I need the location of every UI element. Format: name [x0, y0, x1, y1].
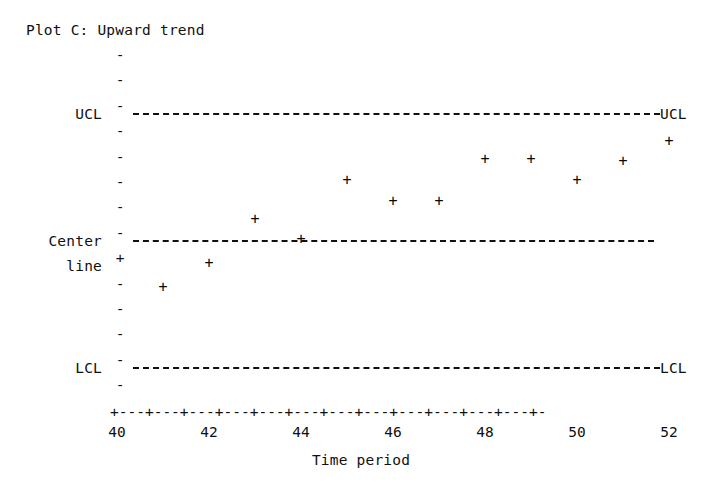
- ucl-label-left: UCL: [24, 106, 102, 122]
- data-point: +: [616, 156, 630, 166]
- y-axis-tick: -: [113, 101, 127, 111]
- center-line-label-row2: line: [24, 258, 102, 274]
- x-axis-tick-label: 50: [557, 424, 597, 440]
- data-point: +: [432, 196, 446, 206]
- lcl-label-right: LCL: [660, 360, 687, 376]
- y-axis-tick: -: [113, 355, 127, 365]
- y-axis-tick: -: [113, 152, 127, 162]
- y-axis-tick: -: [113, 177, 127, 187]
- center-line-label-row1: Center: [24, 233, 102, 249]
- x-axis-tick-label: 52: [649, 424, 689, 440]
- x-axis-tick-label: 42: [189, 424, 229, 440]
- x-axis-tick-label: 40: [97, 424, 137, 440]
- lcl-label-left: LCL: [24, 360, 102, 376]
- x-axis-line: +---+---+---+---+---+---+---+---+---+---…: [110, 406, 547, 418]
- y-axis-tick: -: [113, 75, 127, 85]
- y-axis-tick: -: [113, 279, 127, 289]
- x-axis-tick-label: 48: [465, 424, 505, 440]
- data-point: +: [248, 214, 262, 224]
- x-axis-title: Time period: [0, 452, 722, 468]
- control-chart-figure: Plot C: Upward trend UCL Center line LCL…: [0, 0, 722, 488]
- data-point: +: [156, 282, 170, 292]
- y-axis-tick: -: [113, 202, 127, 212]
- y-axis-tick: -: [113, 380, 127, 390]
- data-point: +: [294, 234, 308, 244]
- data-point: +: [478, 154, 492, 164]
- y-axis-tick: -: [113, 228, 127, 238]
- data-point: +: [202, 258, 216, 268]
- ucl-label-right: UCL: [660, 106, 687, 122]
- y-axis-tick: -: [113, 126, 127, 136]
- ucl-limit-line: [133, 113, 660, 115]
- x-axis-tick-label: 46: [373, 424, 413, 440]
- data-point: +: [524, 154, 538, 164]
- data-point: +: [340, 175, 354, 185]
- data-point: +: [662, 136, 676, 146]
- x-axis-tick-label: 44: [281, 424, 321, 440]
- y-axis-tick: -: [113, 50, 127, 60]
- data-point: +: [570, 175, 584, 185]
- y-axis-tick-with-point: +: [113, 253, 127, 263]
- y-axis-tick: -: [113, 304, 127, 314]
- chart-title: Plot C: Upward trend: [26, 22, 205, 38]
- data-point: +: [386, 196, 400, 206]
- center-limit-line: [133, 240, 654, 242]
- lcl-limit-line: [133, 367, 660, 369]
- y-axis-tick: -: [113, 329, 127, 339]
